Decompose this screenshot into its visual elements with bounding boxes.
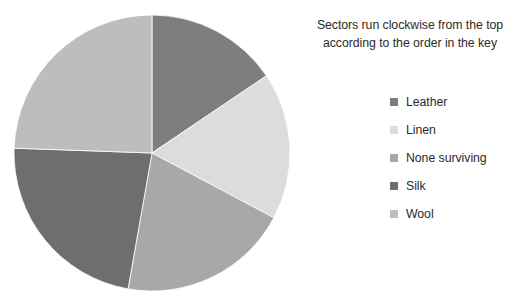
legend-label-wool: Wool xyxy=(406,207,434,221)
pie-chart-svg xyxy=(0,0,305,305)
pie-chart-plot-area xyxy=(0,0,305,305)
legend-label-linen: Linen xyxy=(406,123,436,137)
legend-label-none-surviving: None surviving xyxy=(406,151,487,165)
legend-label-leather: Leather xyxy=(406,95,447,109)
legend-items: LeatherLinenNone survivingSilkWool xyxy=(389,88,515,228)
legend-note-line-2: according to the order in the key xyxy=(323,36,497,50)
legend-swatch-leather xyxy=(389,97,399,107)
pie-slice-group xyxy=(14,15,290,291)
legend-swatch-wool xyxy=(389,209,399,219)
legend-note: Sectors run clockwise from the top accor… xyxy=(305,17,515,52)
legend-item-leather[interactable]: Leather xyxy=(389,88,515,116)
legend-swatch-silk xyxy=(389,181,399,191)
legend-note-line-1: Sectors run clockwise from the top xyxy=(317,18,503,32)
legend-item-wool[interactable]: Wool xyxy=(389,200,515,228)
pie-slice-wool[interactable] xyxy=(14,15,152,153)
legend-label-silk: Silk xyxy=(406,179,426,193)
legend-swatch-none-surviving xyxy=(389,153,399,163)
legend-item-silk[interactable]: Silk xyxy=(389,172,515,200)
legend-item-linen[interactable]: Linen xyxy=(389,116,515,144)
pie-chart-figure: Sectors run clockwise from the top accor… xyxy=(0,0,515,305)
legend-panel: Sectors run clockwise from the top accor… xyxy=(305,0,515,305)
legend-swatch-linen xyxy=(389,125,399,135)
pie-slice-silk[interactable] xyxy=(14,148,152,289)
legend-item-none-surviving[interactable]: None surviving xyxy=(389,144,515,172)
